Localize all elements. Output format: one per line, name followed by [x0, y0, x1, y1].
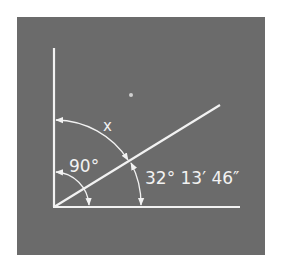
angle-diagram: x 90° 32° 13′ 46″ [0, 0, 284, 275]
label-90: 90° [69, 156, 99, 176]
arc-90 [56, 172, 89, 205]
arc-x [56, 120, 128, 160]
label-given-angle: 32° 13′ 46″ [145, 168, 239, 188]
dot [129, 93, 133, 97]
arc-given [131, 163, 141, 205]
label-x: x [103, 117, 112, 135]
